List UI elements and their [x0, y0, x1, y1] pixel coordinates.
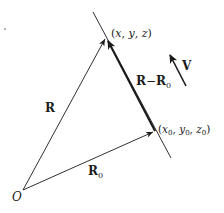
point-p-label: (x, y, z)	[111, 27, 152, 40]
line-vector-diagram: (x, y, z) (x0, y0, z0) R−R0 V R R0 O	[0, 0, 224, 213]
vector-r0-arrow	[23, 132, 153, 190]
vector-r0-label: R0	[88, 164, 103, 180]
stray-dot	[4, 28, 6, 30]
point-p0-label: (x0, y0, z0)	[158, 123, 210, 137]
vector-r-minus-r0-label: R−R0	[136, 74, 171, 90]
vector-v-label: V	[181, 59, 192, 73]
vector-r-label: R	[45, 101, 56, 115]
origin-label: O	[12, 190, 22, 204]
